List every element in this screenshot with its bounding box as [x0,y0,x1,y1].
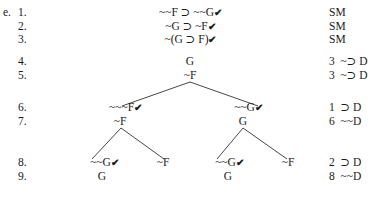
branch-rr-formula-8: ~F [282,156,295,168]
branch-left-formula-7: ~F [114,115,127,127]
branch-left-formula-6: ~~~F✔ [109,101,141,114]
check-mark-icon: ✔ [255,102,262,113]
branch-ll-formula-9: G [98,170,106,182]
justification-5: 3 ~⊃ D [329,69,368,81]
justification-3: SM [329,33,346,45]
branch-right-formula-7: G [239,115,247,127]
justification-7: 6 ~~D [329,115,361,127]
branch-ll-formula-8: ~~G✔ [90,156,118,169]
branch-rl-formula-9: G [224,170,232,182]
justification-4: 3 ~⊃ D [329,55,368,67]
branch-right-formula-6: ~~G✔ [234,101,262,114]
check-mark-icon: ✔ [134,102,141,113]
tree-branches [0,0,379,197]
check-mark-icon: ✔ [111,157,118,168]
justification-6: 1 ⊃ D [329,101,361,113]
check-mark-icon: ✔ [236,157,243,168]
justification-1: SM [329,6,346,18]
justification-2: SM [329,20,346,32]
branch-lr-formula-8: ~F [157,156,170,168]
justification-8: 2 ⊃ D [329,156,361,168]
branch-rl-formula-8: ~~G✔ [215,156,243,169]
justification-9: 8 ~~D [329,170,361,182]
